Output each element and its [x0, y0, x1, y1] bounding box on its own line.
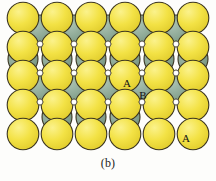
interstitial-hole: [139, 70, 145, 76]
sphere-layer-a: [75, 118, 107, 150]
sphere-layer-a: [177, 31, 209, 63]
label-b: B: [139, 89, 146, 101]
sphere-layer-a: [7, 31, 39, 63]
sphere-layer-a: [177, 2, 209, 34]
sphere-layer-a: [109, 118, 141, 150]
close-packed-sphere-diagram: ABA: [0, 0, 216, 181]
interstitial-hole: [105, 70, 111, 76]
sphere-layer-a: [177, 60, 209, 92]
sphere-layer-a: [7, 2, 39, 34]
figure-caption: (b): [0, 156, 216, 171]
sphere-layer-a: [109, 89, 141, 121]
interstitial-hole: [71, 99, 77, 105]
figure-root: ABA (b): [0, 0, 216, 181]
sphere-layer-a: [7, 89, 39, 121]
interstitial-hole: [105, 99, 111, 105]
sphere-layer-a: [41, 118, 73, 150]
sphere-layer-a: [143, 89, 175, 121]
sphere-layer-a: [75, 89, 107, 121]
sphere-layer-a: [75, 60, 107, 92]
interstitial-hole: [173, 99, 179, 105]
sphere-layer-a: [75, 2, 107, 34]
sphere-layer-a: [143, 60, 175, 92]
label-a-upper: A: [123, 77, 131, 89]
interstitial-hole: [173, 41, 179, 47]
sphere-layer-a: [143, 31, 175, 63]
sphere-layer-a: [41, 2, 73, 34]
sphere-layer-a: [143, 2, 175, 34]
interstitial-hole: [37, 99, 43, 105]
sphere-layer-a: [143, 118, 175, 150]
interstitial-hole: [139, 41, 145, 47]
sphere-layer-a: [41, 89, 73, 121]
sphere-layer-a: [177, 89, 209, 121]
interstitial-hole: [71, 70, 77, 76]
sphere-layer-a: [7, 118, 39, 150]
sphere-layer-a: [41, 31, 73, 63]
interstitial-hole: [37, 70, 43, 76]
sphere-layer-a: [41, 60, 73, 92]
sphere-layer-a: [75, 31, 107, 63]
sphere-layer-a: [109, 2, 141, 34]
interstitial-hole: [37, 41, 43, 47]
interstitial-hole: [173, 70, 179, 76]
sphere-layer-a: [109, 31, 141, 63]
sphere-layer-a: [7, 60, 39, 92]
interstitial-hole: [71, 41, 77, 47]
label-a-lower: A: [182, 132, 190, 144]
interstitial-hole: [105, 41, 111, 47]
